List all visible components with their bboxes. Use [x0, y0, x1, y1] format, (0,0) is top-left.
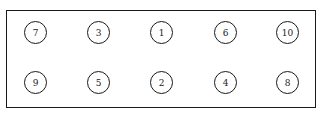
position-node: 9	[24, 71, 47, 94]
position-node: 3	[87, 21, 110, 44]
position-node: 2	[150, 71, 173, 94]
position-node: 4	[214, 71, 237, 94]
position-node: 10	[276, 21, 299, 44]
position-node: 8	[276, 71, 299, 94]
position-node: 5	[87, 71, 110, 94]
position-node: 7	[24, 21, 47, 44]
position-node: 6	[214, 21, 237, 44]
position-node: 1	[150, 21, 173, 44]
